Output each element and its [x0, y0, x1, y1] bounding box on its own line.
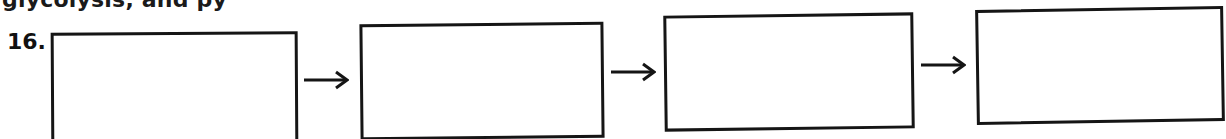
right-arrow-icon: [303, 70, 349, 90]
clipped-heading-text: glycolysis, and py: [2, 0, 227, 12]
answer-box-1[interactable]: [51, 31, 299, 139]
right-arrow-icon: [920, 55, 966, 75]
question-number: 16.: [7, 29, 46, 54]
answer-box-4[interactable]: [975, 6, 1225, 125]
arrow-3: [920, 55, 966, 75]
arrow-2: [610, 62, 656, 82]
right-arrow-icon: [610, 62, 656, 82]
arrow-1: [303, 70, 349, 90]
answer-box-2[interactable]: [359, 22, 604, 139]
answer-box-3[interactable]: [663, 12, 914, 131]
